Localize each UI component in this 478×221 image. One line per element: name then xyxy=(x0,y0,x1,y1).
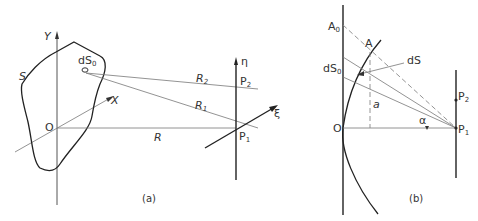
p2-label: P2 xyxy=(240,75,251,89)
p1-label: P1 xyxy=(239,130,250,144)
figure-b: O A0 A dS0 dS a α P2 P1 (b) xyxy=(323,5,469,215)
x-axis-label: X xyxy=(110,94,119,107)
y-axis-label: Y xyxy=(44,30,52,43)
origin-label-b: O xyxy=(333,122,342,135)
ds-pointer xyxy=(360,63,404,74)
ray-upper xyxy=(343,57,456,128)
xi-label: ξ xyxy=(274,107,280,120)
caption-a: (a) xyxy=(142,193,156,204)
ds-label: dS xyxy=(407,54,421,67)
eta-label: η xyxy=(241,55,248,68)
r2-label: R2 xyxy=(196,72,209,86)
r1-label: R1 xyxy=(195,99,207,113)
diffraction-geometry-figure: Y X O S dS0 R1 R2 R η ξ P1 P2 (a) xyxy=(0,0,478,221)
dashed-a0-p1 xyxy=(343,25,456,128)
p2-label-b: P2 xyxy=(458,90,469,104)
eta-axis-arrow-icon xyxy=(234,57,238,65)
y-axis-arrow-icon xyxy=(55,31,59,39)
alpha-label: α xyxy=(419,114,426,127)
a-length-label: a xyxy=(373,98,380,111)
surface-label: S xyxy=(19,70,26,83)
origin-label: O xyxy=(45,121,54,134)
figure-a: Y X O S dS0 R1 R2 R η ξ P1 P2 (a) xyxy=(15,30,280,205)
ray-lower xyxy=(343,77,456,128)
caption-b: (b) xyxy=(409,193,423,204)
ds0-label: dS0 xyxy=(323,62,341,76)
element-label: dS0 xyxy=(78,54,96,68)
a-label: A xyxy=(365,37,373,50)
p1-label-b: P1 xyxy=(458,123,469,137)
a0-label: A0 xyxy=(328,20,340,34)
element-marker xyxy=(82,68,88,72)
x-axis xyxy=(15,97,112,152)
wavefront-curve xyxy=(343,40,381,214)
r-label: R xyxy=(154,131,162,144)
